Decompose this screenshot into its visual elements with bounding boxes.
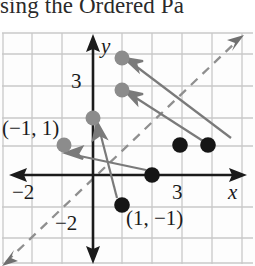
coordinate-plane-figure: y x 3 −2 −2 3 (−1, 1) (1, −1) <box>0 30 255 266</box>
y-axis-letter-label: y <box>101 36 110 57</box>
coordinate-plane-svg <box>0 30 255 266</box>
x-axis-letter-label: x <box>228 182 237 203</box>
point-reflected-1-4 <box>115 51 130 66</box>
point-original-2-0 <box>144 167 160 183</box>
y-axis-tick-label-neg2: −2 <box>55 213 77 234</box>
point-label-1-neg1: (1, −1) <box>126 208 183 229</box>
point-original-4-1 <box>200 137 216 153</box>
point-original-3-1 <box>172 137 188 153</box>
mapping-arrow-4 <box>124 58 231 138</box>
mapping-arrow-3 <box>124 90 203 141</box>
x-axis-tick-label-3: 3 <box>172 182 183 203</box>
page-heading-strip: ersing the Ordered Pa <box>0 0 255 30</box>
x-axis-tick-label-neg2: −2 <box>12 182 34 203</box>
point-reflected-1-3 <box>115 83 130 98</box>
point-reflected-0-2 <box>86 111 101 126</box>
point-label-neg1-1: (−1, 1) <box>2 118 59 139</box>
y-axis-tick-label-3: 3 <box>71 71 82 92</box>
page-heading-text: ersing the Ordered Pa <box>0 0 184 19</box>
